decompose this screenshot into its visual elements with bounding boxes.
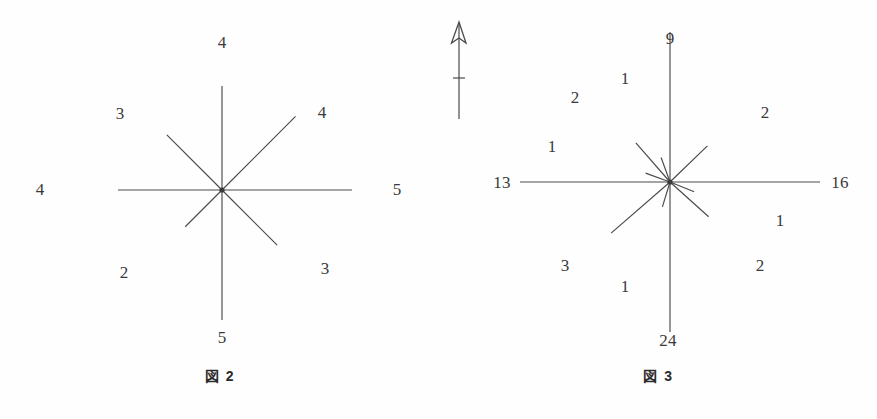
rose-ray-value-label: 16: [831, 174, 848, 191]
figure-2: 44535243 図 2: [0, 0, 440, 419]
rose-ray-value-label: 9: [666, 30, 675, 47]
rose-ray: [670, 146, 707, 182]
page-canvas: 44535243 図 2 921612241313121 図 3: [0, 0, 877, 419]
rose-ray: [670, 182, 694, 192]
rose-ray-value-label: 4: [218, 34, 227, 51]
rose-ray: [661, 158, 670, 182]
rose-ray: [222, 116, 296, 190]
rose-ray: [222, 190, 277, 245]
rose-ray: [185, 190, 222, 227]
rose-ray-value-label: 2: [571, 89, 580, 106]
figure-3: 921612241313121 図 3: [440, 0, 877, 419]
rose-ray-value-label: 2: [120, 264, 129, 281]
rose-ray-value-label: 5: [218, 329, 227, 346]
rose-ray-value-label: 2: [761, 104, 770, 121]
rose-ray-value-label: 3: [321, 260, 330, 277]
rose-ray-value-label: 3: [116, 105, 125, 122]
rose-ray-value-label: 5: [393, 181, 402, 198]
rose-ray-value-label: 1: [548, 138, 557, 155]
figure-2-caption: 図 2: [0, 365, 440, 385]
rose-ray-value-label: 24: [659, 332, 676, 349]
rose-center-hub: [667, 179, 672, 184]
rose-ray-value-label: 4: [318, 104, 327, 121]
rose-ray: [611, 182, 670, 233]
rose-ray-value-label: 2: [756, 257, 765, 274]
figure-3-caption: 図 3: [440, 365, 877, 385]
rose-ray-value-label: 3: [561, 257, 570, 274]
rose-center-hub: [219, 187, 224, 192]
rose-ray: [167, 135, 222, 190]
rose-ray: [670, 182, 709, 217]
rose-ray-value-label: 13: [493, 174, 510, 191]
rose-ray-value-label: 4: [36, 181, 45, 198]
rose-diagram-figure-2: [0, 0, 440, 360]
rose-ray-value-label: 1: [776, 212, 785, 229]
rose-ray-value-label: 1: [621, 278, 630, 295]
rose-ray-value-label: 1: [621, 70, 630, 87]
